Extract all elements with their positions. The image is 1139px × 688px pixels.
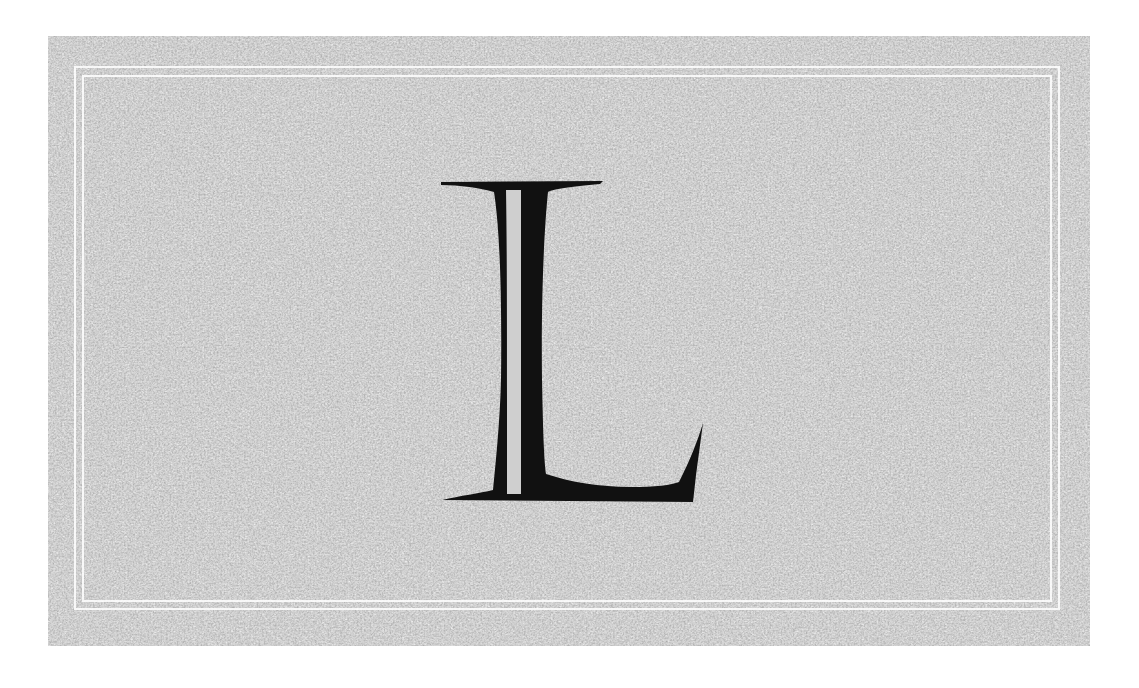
letter-l-stem-gap [506,190,521,494]
letter-l-shape [441,181,703,502]
letter-l-glyph [0,0,1139,688]
